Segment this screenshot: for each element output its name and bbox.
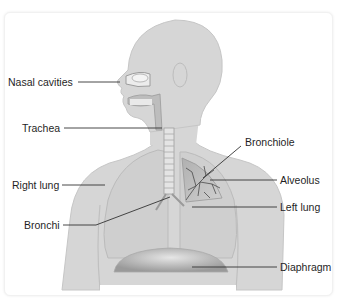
label-nasal-cavities: Nasal cavities <box>8 76 73 88</box>
label-diaphragm: Diaphragm <box>280 261 331 273</box>
respiratory-illustration <box>0 0 343 303</box>
label-left-lung: Left lung <box>280 201 320 213</box>
label-trachea: Trachea <box>22 122 60 134</box>
label-right-lung: Right lung <box>12 179 59 191</box>
label-bronchiole: Bronchiole <box>245 136 295 148</box>
trachea-shape <box>164 128 174 194</box>
label-alveolus: Alveolus <box>280 174 320 186</box>
label-bronchi: Bronchi <box>24 219 60 231</box>
